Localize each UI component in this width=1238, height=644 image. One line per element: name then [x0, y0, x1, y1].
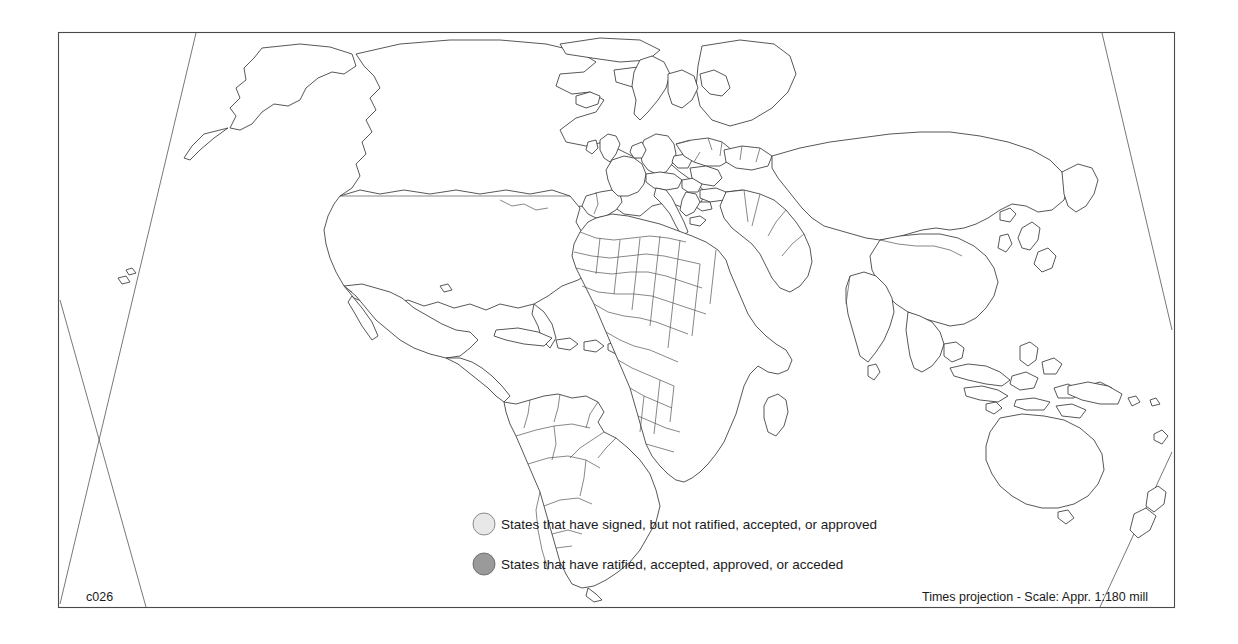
region-benelux: [630, 142, 646, 158]
legend-signed-circle: [473, 513, 495, 535]
legend-ratified-circle: [473, 553, 495, 575]
map-legend: States that have signed, but not ratifie…: [473, 513, 877, 575]
region-bulgaria: [700, 188, 726, 202]
region-france: [606, 156, 646, 196]
legend-ratified-label: States that have ratified, accepted, app…: [501, 557, 843, 572]
world-map-figure: States that have signed, but not ratifie…: [0, 0, 1238, 644]
sheet-code-label: c026: [86, 590, 113, 604]
projection-scale-label: Times projection - Scale: Appr. 1:180 mi…: [922, 590, 1148, 604]
legend-signed-label: States that have signed, but not ratifie…: [501, 517, 877, 532]
